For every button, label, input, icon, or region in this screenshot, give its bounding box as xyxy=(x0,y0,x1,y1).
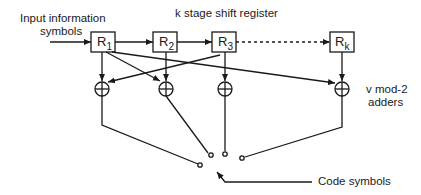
svg-text:R3: R3 xyxy=(218,34,233,52)
adder-1 xyxy=(95,82,109,96)
adders-label-2: adders xyxy=(368,96,403,108)
r3-label: R xyxy=(218,34,227,49)
svg-text:R1: R1 xyxy=(97,34,112,52)
svg-text:Rk: Rk xyxy=(335,34,350,52)
r2-label: R xyxy=(159,34,168,49)
input-label: Input information xyxy=(20,12,106,24)
adders-label: v mod-2 xyxy=(366,83,408,95)
input-label-2: symbols xyxy=(40,25,82,37)
contact-2 xyxy=(209,153,213,157)
contact-v xyxy=(240,156,244,160)
svg-text:R2: R2 xyxy=(159,34,174,52)
r1-label: R xyxy=(97,34,106,49)
rk-label: R xyxy=(335,34,344,49)
contact-1 xyxy=(198,163,202,167)
convolutional-encoder-diagram: Input information symbols k stage shift … xyxy=(0,0,421,195)
adder-2 xyxy=(159,82,173,96)
adder-3 xyxy=(218,82,232,96)
code-symbols-label: Code symbols xyxy=(318,175,391,187)
adder-v xyxy=(335,82,349,96)
contact-3 xyxy=(223,152,227,156)
shift-register-title: k stage shift register xyxy=(175,7,278,19)
